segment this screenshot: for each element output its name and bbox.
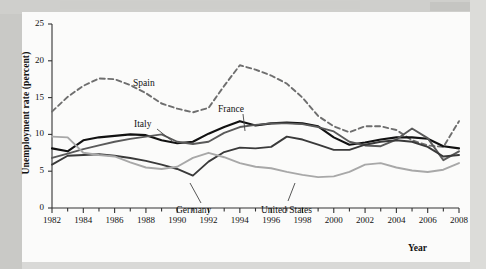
x-tick-label: 1994 xyxy=(223,215,257,225)
annotation-italy: Italy xyxy=(134,119,151,129)
x-tick-label: 2008 xyxy=(442,215,476,225)
annotation-united-states: United States xyxy=(261,205,312,215)
x-tick-label: 1988 xyxy=(129,215,163,225)
x-tick-label: 2000 xyxy=(317,215,351,225)
x-tick-label: 2002 xyxy=(348,215,382,225)
x-tick-label: 1984 xyxy=(66,215,100,225)
annotation-spain: Spain xyxy=(133,78,155,88)
x-tick-label: 2004 xyxy=(379,215,413,225)
y-tick-label: 15 xyxy=(24,92,44,102)
y-tick-label: 10 xyxy=(24,128,44,138)
figure-page: Unemployment rate (percent) Year 0510152… xyxy=(0,0,486,269)
leader-line-united-states xyxy=(288,183,295,201)
x-tick-label: 1982 xyxy=(35,215,69,225)
x-tick-label: 1990 xyxy=(160,215,194,225)
x-tick-label: 1996 xyxy=(254,215,288,225)
y-tick-label: 25 xyxy=(24,18,44,28)
series-line-spain xyxy=(52,65,459,147)
chart-canvas xyxy=(0,0,486,269)
x-tick-label: 2006 xyxy=(411,215,445,225)
x-tick-label: 1986 xyxy=(98,215,132,225)
annotation-france: France xyxy=(218,104,244,114)
x-tick-label: 1998 xyxy=(285,215,319,225)
annotation-germany: Germany xyxy=(176,205,211,215)
x-tick-label: 1992 xyxy=(192,215,226,225)
x-axis-label: Year xyxy=(408,243,427,253)
y-tick-label: 5 xyxy=(24,165,44,175)
y-tick-label: 20 xyxy=(24,55,44,65)
line-chart: Unemployment rate (percent) Year 0510152… xyxy=(0,0,486,269)
leader-line-germany xyxy=(190,183,201,203)
y-tick-label: 0 xyxy=(24,202,44,212)
